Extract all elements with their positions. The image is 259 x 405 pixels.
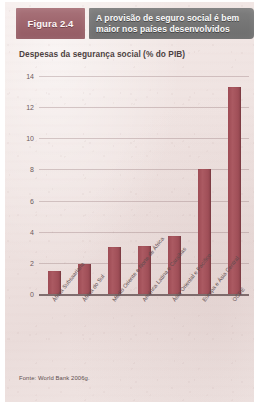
scanned-page-surface: Figura 2.4 A provisão de seguro social é… xyxy=(5,2,254,402)
figure-title-text: A provisão de seguro social é bemmaior n… xyxy=(96,13,239,34)
figure-title-line-1: A provisão de seguro social é bem xyxy=(96,13,239,23)
y-axis-tick-label: 6 xyxy=(30,197,34,204)
y-axis-tick-label: 10 xyxy=(26,135,34,142)
figure-number-label: Figura 2.4 xyxy=(28,18,74,29)
figure-title-line-2: maior nos países desenvolvidos xyxy=(96,24,230,34)
bar xyxy=(198,169,211,294)
figure-page: Figura 2.4 A provisão de seguro social é… xyxy=(0,0,259,405)
y-axis-tick-label: 4 xyxy=(30,228,34,235)
y-axis-tick-label: 12 xyxy=(26,104,34,111)
y-axis-tick-label: 0 xyxy=(30,291,34,298)
figure-title-bar: A provisão de seguro social é bemmaior n… xyxy=(89,8,254,39)
y-axis-tick-label: 2 xyxy=(30,259,34,266)
bar xyxy=(108,247,121,294)
chart-title: Despesas da segurança social (% do PIB) xyxy=(19,49,185,59)
figure-source-note: Fonte: World Bank 2006g. xyxy=(19,375,90,381)
figure-header: Figura 2.4 A provisão de seguro social é… xyxy=(16,8,254,39)
figure-number-badge: Figura 2.4 xyxy=(16,8,85,39)
y-axis-tick-label: 14 xyxy=(26,73,34,80)
y-axis-tick-label: 8 xyxy=(30,166,34,173)
